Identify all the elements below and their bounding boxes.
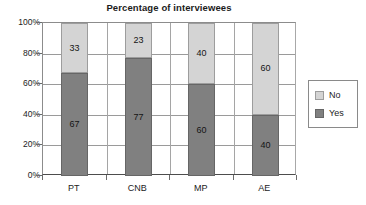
- x-axis-tick-mark: [106, 175, 107, 180]
- y-axis-tick-label: 100%: [6, 17, 40, 27]
- legend-swatch-icon: [315, 91, 324, 100]
- x-axis-tick-label-ae: AE: [258, 183, 270, 193]
- bar-value-label: 60: [260, 64, 270, 73]
- bar-segment-pt-yes: 67: [61, 73, 88, 176]
- x-axis-tick-mark: [42, 175, 43, 180]
- legend-item-no: No: [315, 87, 357, 103]
- bar-value-label: 60: [196, 126, 206, 135]
- chart-title: Percentage of interviewees: [42, 2, 296, 13]
- bar-segment-mp-no: 40: [188, 23, 215, 84]
- stacked-bar-chart: Percentage of interviewees 0%20%40%60%80…: [0, 0, 366, 205]
- bar-value-label: 33: [69, 44, 79, 53]
- legend-item-yes: Yes: [315, 105, 357, 121]
- y-axis-tick-label: 0%: [6, 170, 40, 180]
- y-axis-tick-label: 60%: [6, 78, 40, 88]
- y-axis-tick-label: 20%: [6, 139, 40, 149]
- x-axis-tick-mark: [233, 175, 234, 180]
- bar-value-label: 77: [133, 113, 143, 122]
- bar-value-label: 40: [196, 49, 206, 58]
- bar-segment-pt-no: 33: [61, 23, 88, 73]
- bar-value-label: 40: [260, 141, 270, 150]
- gridline-vertical: [107, 23, 108, 174]
- x-axis-tick-label-pt: PT: [68, 183, 80, 193]
- bar-value-label: 67: [69, 120, 79, 129]
- bar-segment-mp-yes: 60: [188, 84, 215, 176]
- bar-segment-ae-yes: 40: [252, 115, 279, 176]
- y-axis-tick-label: 80%: [6, 48, 40, 58]
- x-axis-tick-mark: [169, 175, 170, 180]
- legend-label: No: [329, 90, 341, 100]
- legend-label: Yes: [329, 108, 344, 118]
- plot-area: 6733772360404060: [42, 22, 296, 175]
- bar-segment-cnb-no: 23: [125, 23, 152, 58]
- x-axis-tick-label-cnb: CNB: [128, 183, 147, 193]
- bar-segment-cnb-yes: 77: [125, 58, 152, 176]
- bar-segment-ae-no: 60: [252, 23, 279, 115]
- legend-swatch-icon: [315, 109, 324, 118]
- y-axis-tick-label: 40%: [6, 109, 40, 119]
- x-axis-tick-mark: [296, 175, 297, 180]
- bar-value-label: 23: [133, 36, 143, 45]
- x-axis-tick-label-mp: MP: [194, 183, 208, 193]
- chart-legend: NoYes: [308, 80, 358, 128]
- gridline-vertical: [170, 23, 171, 174]
- gridline-vertical: [234, 23, 235, 174]
